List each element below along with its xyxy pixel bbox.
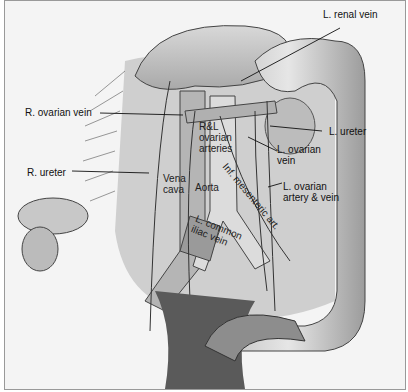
label-aorta: Aorta	[195, 182, 219, 193]
label-l-ovarian-artery-vein: L. ovarian artery & vein	[283, 181, 339, 203]
anatomy-illustration: L. renal vein R. ovarian vein R&L ovaria…	[4, 0, 406, 390]
label-r-ureter: R. ureter	[27, 167, 66, 178]
label-r-ovarian-vein: R. ovarian vein	[25, 107, 92, 118]
label-l-ovarian-vein: L. ovarian vein	[277, 144, 321, 166]
label-l-ureter: L. ureter	[329, 126, 366, 137]
label-rl-ovarian-arteries: R&L ovarian arteries	[199, 121, 232, 154]
label-vena-cava: Vena cava	[163, 173, 186, 195]
label-l-renal-vein: L. renal vein	[323, 9, 377, 20]
illustration-drawing	[5, 1, 405, 389]
